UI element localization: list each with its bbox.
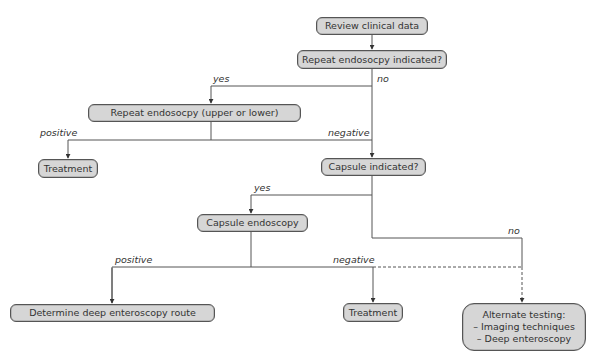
edge-label-yes: yes	[213, 73, 229, 84]
node-capsule-endoscopy: Capsule endoscopy	[197, 214, 308, 232]
node-alternate-testing: Alternate testing: – Imaging techniques …	[462, 303, 586, 351]
edge-label-no: no	[508, 225, 520, 236]
flowchart-canvas: Review clinical data Repeat endosocpy in…	[0, 0, 601, 363]
node-treatment-1: Treatment	[38, 159, 98, 178]
alternate-item: – Deep enteroscopy	[477, 333, 571, 345]
alternate-item: – Imaging techniques	[473, 321, 575, 333]
alternate-title: Alternate testing:	[482, 309, 565, 321]
node-repeat-endoscopy-indicated: Repeat endosocpy indicated?	[297, 50, 447, 69]
node-repeat-endoscopy: Repeat endosocpy (upper or lower)	[88, 104, 301, 122]
node-capsule-indicated: Capsule indicated?	[321, 158, 426, 176]
edge-label-yes: yes	[254, 182, 270, 193]
node-determine-route: Determine deep enteroscopy route	[10, 304, 215, 322]
edge-label-positive: positive	[115, 254, 152, 265]
edge-label-no: no	[377, 73, 389, 84]
edge-label-negative: negative	[333, 254, 375, 265]
node-treatment-2: Treatment	[343, 303, 403, 322]
edge-label-negative: negative	[328, 127, 370, 138]
node-review-clinical-data: Review clinical data	[316, 17, 428, 35]
edge-label-positive: positive	[40, 127, 77, 138]
